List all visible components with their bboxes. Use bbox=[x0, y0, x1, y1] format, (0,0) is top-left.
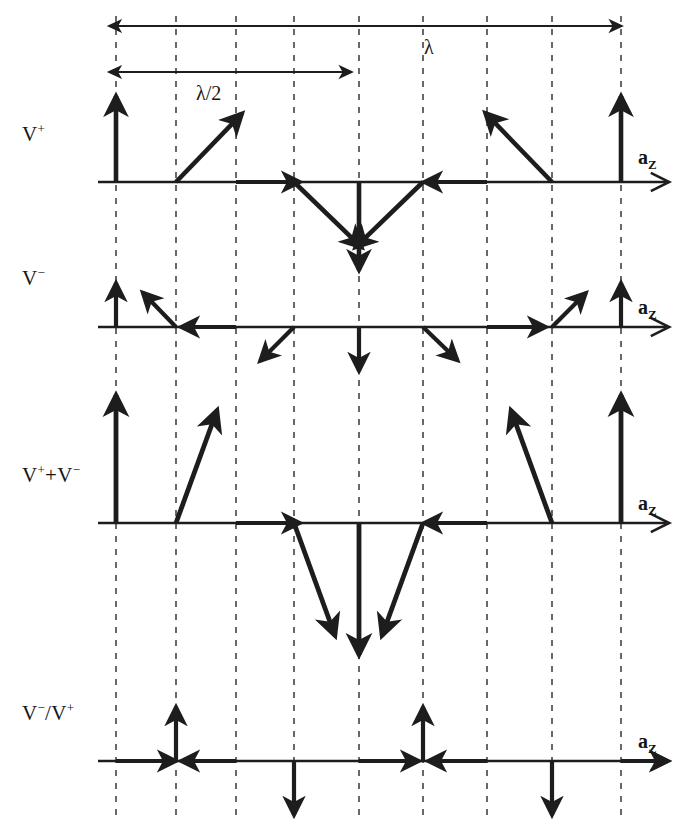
row-label-v-plus-plus-v-minus: V++V− bbox=[22, 462, 80, 488]
row-v-minus bbox=[98, 283, 666, 371]
vector-2 bbox=[176, 114, 242, 182]
row-label-v-plus: V+ bbox=[22, 121, 45, 147]
row-label-v-minus-over-v-plus: V−/V+ bbox=[22, 700, 74, 726]
vector-4 bbox=[294, 523, 335, 636]
phasor-diagram-canvas bbox=[0, 0, 695, 823]
row-v-plus bbox=[98, 96, 666, 270]
row-v-plus-plus-v-minus bbox=[98, 395, 666, 655]
vector-8 bbox=[511, 410, 552, 523]
row-v-minus-over-v-plus bbox=[98, 707, 668, 815]
axis-rows bbox=[98, 96, 668, 815]
axis-label-v-minus: aZ bbox=[638, 296, 657, 323]
vector-4 bbox=[260, 327, 294, 361]
vector-6 bbox=[355, 182, 423, 247]
axis-label-v-plus-plus-v-minus: aZ bbox=[638, 492, 657, 519]
vector-6 bbox=[423, 327, 458, 360]
span-label-lambda: λ bbox=[424, 36, 434, 59]
vector-8 bbox=[485, 113, 552, 182]
axis-label-v-plus: aZ bbox=[638, 146, 657, 173]
axis-label-v-minus-over-v-plus: aZ bbox=[638, 730, 657, 757]
vector-8 bbox=[552, 293, 586, 327]
span-markers bbox=[116, 26, 621, 72]
vector-6 bbox=[382, 523, 423, 636]
vector-2 bbox=[176, 410, 217, 523]
gridlines bbox=[116, 16, 621, 818]
span-label-lambda-half: λ/2 bbox=[196, 82, 221, 105]
vector-4 bbox=[294, 182, 362, 247]
vector-2 bbox=[143, 292, 176, 327]
row-label-v-minus: V− bbox=[22, 265, 45, 291]
